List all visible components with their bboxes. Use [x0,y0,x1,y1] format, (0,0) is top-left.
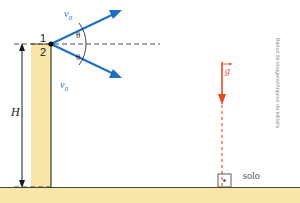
point-label-2: 2 [40,47,46,58]
height-label: H [11,106,20,118]
velocity-label-upper-subscript: 0 [68,14,72,22]
wall-body [31,44,51,187]
physics-diagram-figure: 1 2 H v0 v0 θ θ g solo Banco de imagens/… [0,0,300,203]
launch-point-marker [48,41,53,46]
velocity-vector-lower [51,44,116,75]
velocity-label-upper: v0 [64,9,72,22]
angle-label-lower: θ [76,53,80,62]
velocity-vector-upper [51,13,116,44]
velocity-label-lower-subscript: 0 [64,85,68,93]
ground-band [0,187,300,203]
velocity-label-lower: v0 [60,80,68,93]
image-credit-text: Banco de imagens/Arquivo da editora [275,38,281,168]
right-angle-center-dot [223,179,226,182]
ground-label: solo [243,171,260,181]
gravity-label: g [222,62,233,75]
angle-label-upper: θ [76,31,80,40]
gravity-arrowhead [218,94,226,105]
gravity-vector-label-glyph: g [222,62,233,75]
point-label-1: 1 [40,33,46,44]
gravity-symbol-text: g [225,65,230,76]
